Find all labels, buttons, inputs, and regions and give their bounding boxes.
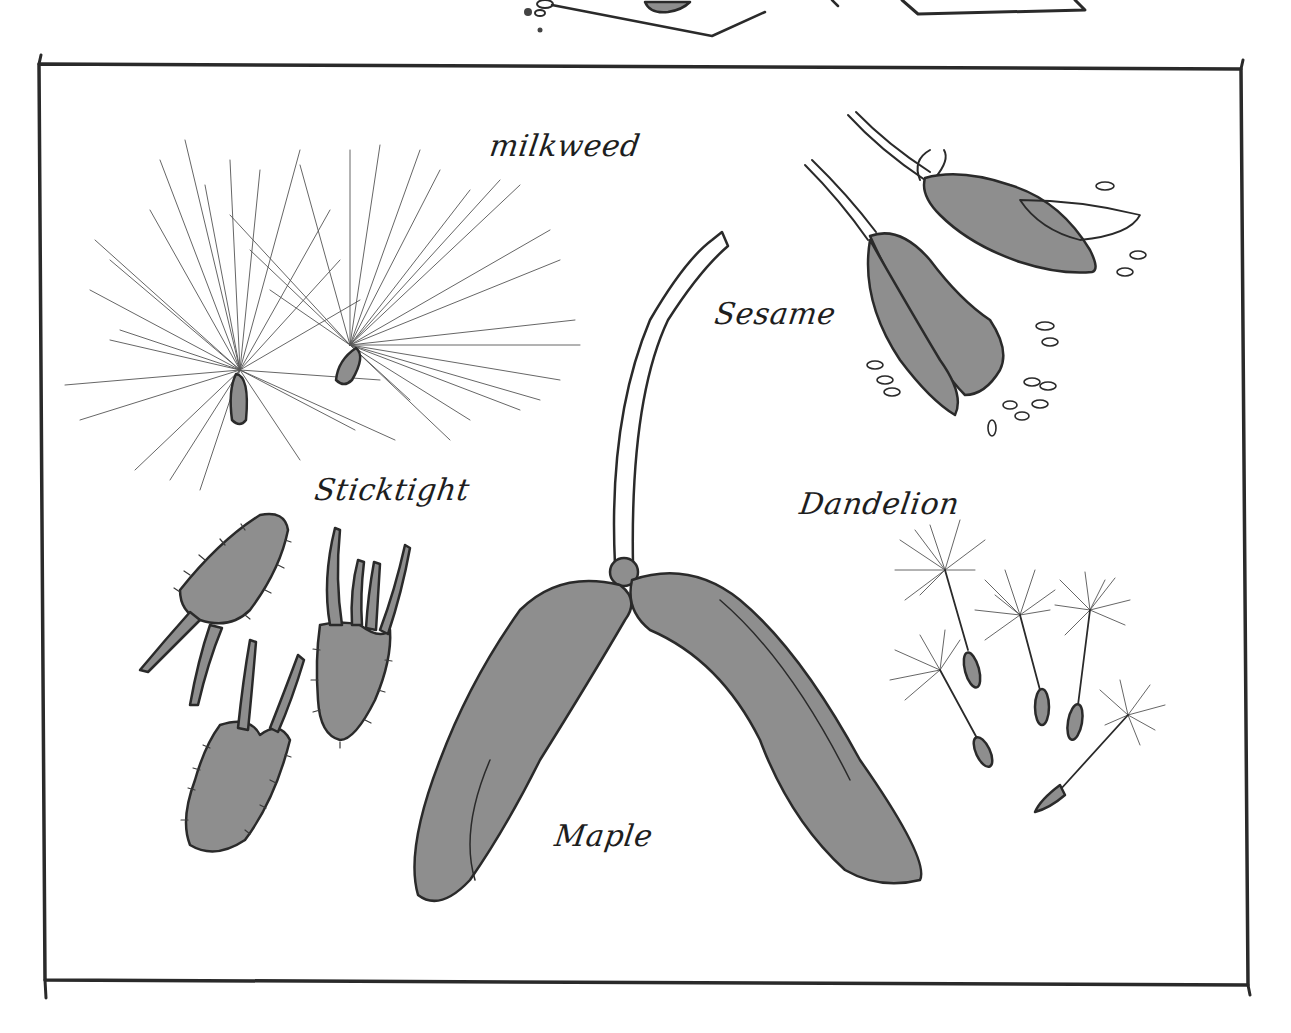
seed-illustration (0, 0, 1291, 1033)
maple-seed (414, 232, 921, 901)
label-sesame: Sesame (713, 296, 839, 331)
picture-frame (39, 55, 1250, 998)
milkweed-seeds (65, 140, 580, 490)
dandelion-seeds (890, 520, 1165, 812)
sesame-pods (805, 112, 1146, 436)
cropped-top-drawing (524, 0, 1085, 36)
label-dandelion: Dandelion (798, 486, 962, 521)
label-sticktight: Sticktight (313, 472, 472, 507)
label-maple: Maple (553, 818, 656, 853)
label-milkweed: milkweed (488, 128, 643, 163)
sticktight-seeds (140, 514, 410, 851)
